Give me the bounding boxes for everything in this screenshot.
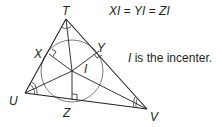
angle-arc-U2b-icon — [36, 88, 37, 95]
equation-text: XI = YI = ZI — [108, 4, 170, 18]
label-V: V — [150, 110, 159, 124]
equation-XI: XI — [108, 4, 121, 18]
angle-arc-V1b-icon — [134, 97, 136, 103]
angle-arc-T1-icon — [62, 27, 67, 29]
label-Y: Y — [97, 41, 106, 55]
bisector-V — [72, 71, 147, 109]
angle-arc-V1-icon — [136, 99, 137, 104]
incenter-diagram: T U V X Y Z I XI = YI = ZI I is the ince… — [0, 0, 222, 127]
side-UV — [25, 93, 147, 109]
equation-ZI: ZI — [158, 4, 170, 18]
equation-YI: YI — [134, 4, 146, 18]
side-TU — [25, 19, 66, 93]
note-rest: is the incenter. — [131, 51, 212, 65]
label-T: T — [62, 4, 71, 18]
angle-arc-U1-icon — [30, 85, 34, 90]
radii — [49, 51, 99, 100]
label-I: I — [84, 62, 88, 76]
angle-arc-U1b-icon — [32, 82, 37, 88]
radius-IX — [49, 54, 72, 71]
label-X: X — [33, 47, 43, 61]
angle-arc-T2-icon — [67, 26, 72, 29]
label-Z: Z — [62, 106, 71, 120]
label-U: U — [9, 94, 18, 108]
incenter-note: I is the incenter. — [128, 51, 212, 65]
angle-arc-V2b-icon — [133, 103, 134, 108]
right-angle-X-icon — [52, 49, 56, 57]
equation-eq1: = — [120, 4, 134, 18]
equation-eq2: = — [145, 4, 159, 18]
angle-arc-V2-icon — [136, 104, 137, 108]
angle-arc-U2-icon — [34, 89, 35, 94]
bisector-T — [66, 19, 72, 71]
